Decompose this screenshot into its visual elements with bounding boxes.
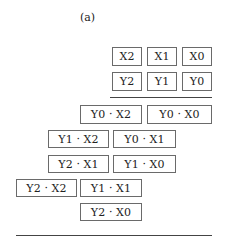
partial-product-y1-x1: Y1 · X1 [80,179,142,197]
partial-product-y0-x2: Y0 · X2 [80,105,142,124]
partial-product-y2-x1: Y2 · X1 [48,155,109,173]
operand-x0: X0 [182,47,212,66]
partial-product-y1-x2: Y1 · X2 [48,130,109,148]
partial-product-y2-x0: Y2 · X0 [80,203,142,221]
partial-product-y1-x0: Y1 · X0 [113,155,176,173]
operand-y2: Y2 [112,72,142,91]
partial-product-y0-x0: Y0 · X0 [147,105,212,124]
operand-y0: Y0 [182,72,212,91]
result-separator-line [16,235,212,236]
operand-x2: X2 [112,47,142,66]
operand-x1: X1 [147,47,177,66]
operand-separator-line [110,97,212,98]
caption-label: (a) [80,11,95,24]
operand-y1: Y1 [147,72,177,91]
partial-product-y0-x1: Y0 · X1 [113,130,176,148]
partial-product-y2-x2: Y2 · X2 [16,179,77,197]
